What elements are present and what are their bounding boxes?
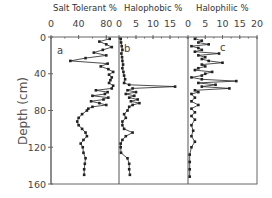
data-point [112, 71, 115, 74]
data-point [109, 79, 112, 82]
data-point [76, 120, 79, 123]
data-point [123, 128, 126, 131]
data-point [197, 104, 200, 107]
data-point [120, 52, 123, 55]
data-point [188, 175, 191, 178]
panel-b-title: Halophobic % [124, 3, 182, 13]
data-point [201, 63, 204, 66]
data-point [194, 50, 197, 53]
data-point [82, 151, 85, 154]
data-point [105, 43, 108, 46]
depth-profile-chart: Salt Tolerant % Halophobic % Halophilic … [0, 0, 272, 198]
data-point [84, 162, 87, 165]
data-point [102, 98, 105, 101]
data-point [128, 96, 131, 99]
y-tick-label: 80 [34, 105, 46, 116]
data-point [106, 62, 109, 65]
data-point [121, 67, 124, 70]
y-tick-label: 40 [34, 68, 46, 79]
data-point [77, 117, 80, 120]
data-point [128, 168, 131, 171]
data-point [119, 142, 122, 145]
data-point [121, 60, 124, 63]
data-point [190, 135, 193, 138]
data-point [194, 118, 197, 121]
data-point [122, 71, 125, 74]
data-point [190, 124, 193, 127]
data-point [81, 113, 84, 116]
y-tick-label: 120 [28, 142, 46, 153]
data-point [81, 128, 84, 131]
data-point [194, 111, 197, 114]
x-tick-label: 40 [73, 18, 85, 29]
data-point [190, 93, 193, 96]
data-point [86, 135, 89, 138]
x-tick-label: 20 [251, 18, 263, 29]
x-tick-label: 0 [48, 18, 54, 29]
data-point [207, 43, 210, 46]
data-point [98, 102, 101, 105]
data-point [190, 76, 193, 79]
data-point [194, 140, 197, 143]
data-point [197, 91, 200, 94]
data-point [201, 39, 204, 42]
data-point [112, 84, 115, 87]
data-point [84, 131, 87, 134]
data-point [130, 100, 133, 103]
data-point [81, 146, 84, 149]
y-tick-label: 160 [28, 179, 46, 190]
data-point [228, 87, 231, 90]
data-point [188, 168, 191, 171]
data-point [121, 139, 124, 142]
data-point [83, 168, 86, 171]
data-point [107, 96, 110, 99]
data-point [197, 47, 200, 50]
data-point [90, 100, 93, 103]
data-point [135, 91, 138, 94]
data-point [126, 89, 129, 92]
data-point [107, 68, 110, 71]
data-point [106, 91, 109, 94]
data-point [91, 106, 94, 109]
data-point [77, 124, 80, 127]
data-point [86, 109, 89, 112]
data-point [190, 100, 193, 103]
data-point [99, 65, 102, 68]
data-point [98, 40, 101, 43]
data-point [125, 93, 128, 96]
data-point [95, 89, 98, 92]
data-point [192, 129, 195, 132]
data-point [102, 49, 105, 52]
data-point [69, 60, 72, 63]
data-point [194, 69, 197, 72]
panel-c-letter: c [220, 42, 226, 53]
panel-a-title: Salt Tolerant % [53, 3, 117, 13]
data-point [201, 74, 204, 77]
data-point [131, 131, 134, 134]
data-point [93, 51, 96, 54]
x-tick-label: 5 [202, 18, 208, 29]
data-point [82, 139, 85, 142]
data-point [133, 95, 136, 98]
data-point [105, 104, 108, 107]
y-axis-label: Depth (cm) [16, 77, 30, 145]
x-tick-label: 0 [116, 18, 122, 29]
data-point [110, 76, 113, 79]
data-point [123, 82, 126, 85]
data-point [125, 117, 128, 120]
data-point [121, 124, 124, 127]
data-point [197, 82, 200, 85]
data-point [201, 78, 204, 81]
data-point [108, 73, 111, 76]
data-point [188, 153, 191, 156]
data-point [110, 87, 113, 90]
panel-b-letter: b [124, 43, 130, 54]
data-point [108, 38, 111, 41]
data-point [221, 61, 224, 64]
data-point [128, 83, 131, 86]
x-tick-label: 15 [164, 18, 176, 29]
data-point [79, 142, 82, 145]
panel-a-letter: a [57, 45, 63, 56]
data-point [129, 174, 132, 177]
data-point [110, 46, 113, 49]
